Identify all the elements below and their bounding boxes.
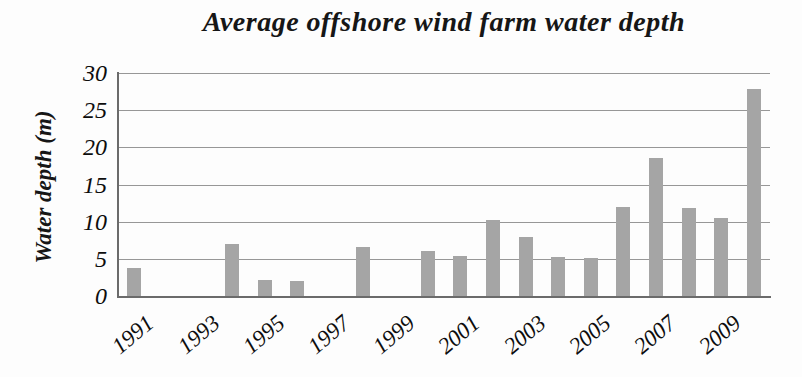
bar-2001 (453, 256, 467, 296)
bar-1995 (258, 280, 272, 296)
bar-2005 (584, 258, 598, 296)
x-tick-label-1997: 1997 (304, 311, 355, 359)
bar-chart: Average offshore wind farm water depth W… (0, 0, 802, 377)
x-axis-line (117, 296, 771, 298)
gridline-10 (118, 222, 770, 223)
gridline-30 (118, 73, 770, 74)
y-tick-label-10: 10 (0, 208, 107, 236)
x-tick-label-1993: 1993 (173, 311, 224, 359)
x-tick-label-2003: 2003 (499, 311, 550, 359)
x-tick-label-1995: 1995 (238, 311, 289, 359)
bar-2002 (486, 220, 500, 296)
x-tick-label-1999: 1999 (369, 311, 420, 359)
bar-2004 (551, 257, 565, 296)
x-tick-label-2005: 2005 (564, 311, 615, 359)
bar-1996 (290, 281, 304, 296)
y-tick-label-25: 25 (0, 96, 107, 124)
y-tick-label-15: 15 (0, 171, 107, 199)
bar-2006 (616, 207, 630, 296)
y-tick-label-5: 5 (0, 245, 107, 273)
bar-2008 (682, 208, 696, 296)
y-axis-line (117, 72, 119, 297)
x-tick-label-2001: 2001 (434, 311, 485, 359)
bar-2010 (747, 89, 761, 296)
bar-1991 (127, 268, 141, 296)
gridline-5 (118, 259, 770, 260)
bar-2000 (421, 251, 435, 296)
bar-2009 (714, 218, 728, 296)
bar-1994 (225, 244, 239, 296)
x-tick-label-2007: 2007 (630, 311, 681, 359)
bar-1998 (356, 247, 370, 296)
y-tick-label-20: 20 (0, 133, 107, 161)
y-tick-label-0: 0 (0, 282, 107, 310)
gridline-20 (118, 147, 770, 148)
gridline-15 (118, 185, 770, 186)
gridline-25 (118, 110, 770, 111)
chart-title: Average offshore wind farm water depth (118, 6, 770, 38)
x-tick-label-2009: 2009 (695, 311, 746, 359)
bar-2003 (519, 237, 533, 296)
y-tick-label-30: 30 (0, 59, 107, 87)
x-tick-label-1991: 1991 (108, 311, 159, 359)
bar-2007 (649, 158, 663, 296)
